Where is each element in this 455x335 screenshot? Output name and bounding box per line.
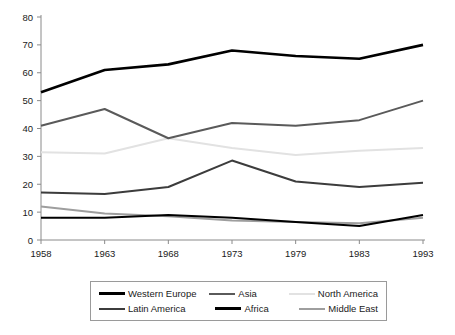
y-axis-tick-label: 30 (22, 151, 33, 162)
legend-swatch-western-europe (99, 292, 125, 295)
legend-swatch-asia (209, 293, 235, 295)
legend-label-north-america: North America (318, 288, 378, 299)
y-axis-tick-label: 60 (22, 67, 33, 78)
x-axis-tick-label: 1963 (94, 248, 115, 259)
legend-swatch-middle-east (299, 308, 325, 310)
legend-item-north-america[interactable]: North America (289, 288, 378, 299)
x-axis-tick-label: 1973 (221, 248, 242, 259)
chart-legend: Western Europe Asia North America Latin … (90, 281, 387, 321)
x-axis-tick-label: 1983 (349, 248, 370, 259)
y-axis-tick-label: 20 (22, 179, 33, 190)
legend-label-western-europe: Western Europe (128, 288, 196, 299)
x-axis-tick-label: 1993 (412, 248, 433, 259)
series-line-asia (41, 101, 423, 139)
legend-label-middle-east: Middle East (328, 303, 378, 314)
legend-label-asia: Asia (238, 288, 256, 299)
legend-item-middle-east[interactable]: Middle East (299, 303, 378, 314)
x-axis-tick-label: 1958 (30, 248, 51, 259)
legend-item-asia[interactable]: Asia (209, 288, 288, 299)
y-axis-tick-label: 0 (28, 235, 33, 246)
legend-swatch-africa (215, 307, 241, 310)
legend-item-africa[interactable]: Africa (215, 303, 299, 314)
legend-swatch-north-america (289, 293, 315, 295)
legend-item-western-europe[interactable]: Western Europe (99, 288, 209, 299)
y-axis-tick-label: 70 (22, 39, 33, 50)
y-axis-tick-label: 80 (22, 12, 33, 23)
y-axis-tick-label: 50 (22, 95, 33, 106)
legend-row: Latin America Africa Middle East (99, 301, 378, 316)
line-chart: 0102030405060708019581963196819731979198… (0, 0, 455, 335)
x-axis-tick-label: 1968 (158, 248, 179, 259)
legend-label-africa: Africa (244, 303, 268, 314)
x-axis-tick-label: 1979 (285, 248, 306, 259)
y-axis-tick-label: 10 (22, 207, 33, 218)
legend-label-latin-america: Latin America (128, 303, 186, 314)
series-line-western-europe (41, 45, 423, 92)
y-axis-tick-label: 40 (22, 123, 33, 134)
legend-item-latin-america[interactable]: Latin America (99, 303, 215, 314)
legend-row: Western Europe Asia North America (99, 286, 378, 301)
series-line-north-america (41, 138, 423, 155)
series-line-latin-america (41, 161, 423, 194)
series-line-middle-east (41, 207, 423, 224)
legend-swatch-latin-america (99, 308, 125, 310)
